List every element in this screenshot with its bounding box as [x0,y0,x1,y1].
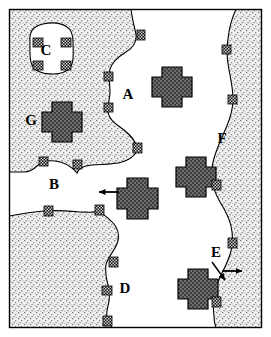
boundary-marker [95,205,104,215]
region-label-g: G [25,112,37,128]
boundary-marker [212,180,221,190]
region-label-b: B [49,176,59,192]
region-label-f: F [217,130,226,146]
boundary-marker [212,297,221,307]
boundary-marker [109,257,118,267]
boundary-marker [73,160,82,169]
boundary-marker [222,45,231,54]
boundary-marker [103,316,112,326]
boundary-marker [104,72,113,81]
boundary-marker [61,61,71,70]
boundary-marker [61,38,71,47]
boundary-marker [228,95,237,104]
boundary-marker [137,30,145,40]
figure-canvas: A B C D E F G [0,0,271,337]
region-label-e: E [211,244,221,260]
boundary-marker [44,206,53,216]
boundary-marker [104,103,113,112]
fracture-map-figure: A B C D E F G [0,0,271,337]
boundary-marker [102,286,112,295]
boundary-marker [133,143,142,153]
region-label-c: C [41,42,52,58]
region-label-d: D [120,280,131,296]
boundary-marker [228,238,237,248]
region-label-a: A [123,86,134,102]
boundary-marker [33,61,43,70]
stipple-region-lower-left [9,211,119,328]
boundary-marker [39,157,48,166]
